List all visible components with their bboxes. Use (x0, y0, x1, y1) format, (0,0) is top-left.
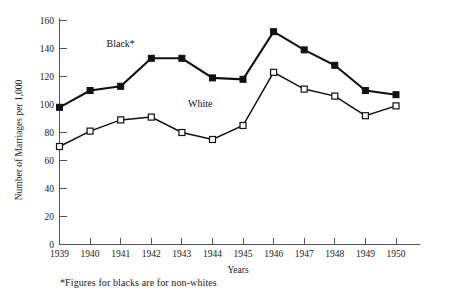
data-point-white-1942 (148, 114, 154, 120)
x-label-1947: 1947 (295, 249, 314, 259)
x-label-1944: 1944 (203, 249, 222, 259)
y-label-60: 60 (45, 156, 55, 166)
x-label-1946: 1946 (264, 249, 283, 259)
data-point-black-1946 (271, 29, 277, 35)
y-tick-labels: 160 140 120 100 80 60 40 20 0 (40, 16, 55, 250)
y-label-20: 20 (45, 212, 55, 222)
y-label-120: 120 (40, 72, 55, 82)
data-point-white-1944 (210, 137, 216, 143)
data-point-black-1944 (210, 75, 216, 81)
x-label-1945: 1945 (234, 249, 253, 259)
data-point-white-1950 (393, 103, 399, 109)
data-point-black-1950 (393, 92, 399, 98)
x-tick-group (60, 238, 397, 245)
x-label-1942: 1942 (142, 249, 161, 259)
data-point-black-1945 (240, 76, 246, 82)
data-point-black-1947 (301, 47, 307, 53)
data-point-white-1945 (240, 123, 246, 129)
data-point-white-1939 (57, 144, 63, 150)
y-label-80: 80 (45, 128, 55, 138)
x-label-1950: 1950 (387, 249, 406, 259)
y-label-160: 160 (40, 16, 55, 26)
marriage-rate-line-chart: 160 140 120 100 80 60 40 20 0 1939194019… (0, 0, 457, 296)
data-point-black-1943 (179, 55, 185, 61)
data-point-white-1947 (301, 86, 307, 92)
data-point-white-1948 (332, 93, 338, 99)
data-point-white-1941 (118, 117, 124, 123)
data-point-black-1941 (118, 83, 124, 89)
axes-group (60, 18, 421, 245)
x-label-1943: 1943 (172, 249, 191, 259)
series-label-black: Black* (107, 38, 135, 49)
data-point-white-1943 (179, 130, 185, 136)
data-point-black-1940 (87, 88, 93, 94)
data-point-white-1946 (271, 69, 277, 75)
y-tick-group (60, 21, 68, 217)
y-label-40: 40 (45, 184, 55, 194)
x-tick-labels: 1939194019411942194319441945194619471948… (50, 249, 406, 259)
x-label-1940: 1940 (81, 249, 100, 259)
series-label-white: White (188, 98, 213, 109)
y-axis-title: Number of Marriages per 1,000 (14, 79, 24, 200)
y-label-140: 140 (40, 44, 55, 54)
x-label-1948: 1948 (325, 249, 344, 259)
x-label-1939: 1939 (50, 249, 69, 259)
data-point-white-1949 (362, 113, 368, 119)
x-axis-title: Years (227, 265, 249, 275)
series-line-white (60, 72, 397, 146)
data-point-black-1942 (148, 55, 154, 61)
chart-footnote: *Figures for blacks are for non-whites (60, 277, 217, 288)
data-point-white-1940 (87, 128, 93, 134)
y-label-100: 100 (40, 100, 55, 110)
data-point-black-1939 (57, 104, 63, 110)
series-markers-white (57, 69, 400, 149)
data-point-black-1948 (332, 62, 338, 68)
x-label-1941: 1941 (111, 249, 130, 259)
data-point-black-1949 (362, 88, 368, 94)
chart-figure: 160 140 120 100 80 60 40 20 0 1939194019… (0, 0, 457, 296)
x-label-1949: 1949 (356, 249, 375, 259)
series-annotations: Black* White (107, 38, 213, 109)
